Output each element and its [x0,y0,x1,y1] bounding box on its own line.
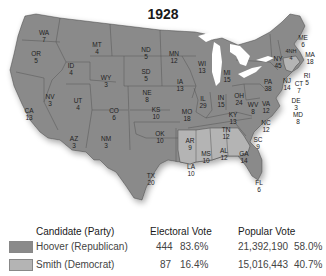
state-label-or: OR5 [31,50,41,64]
electoral-votes: 444 [156,241,173,252]
state-label-ct: CT7 [295,80,304,94]
electoral-percent: 83.6% [180,241,208,252]
state-label-ms: MS10 [201,150,211,164]
header-popular-vote: Popular Vote [238,226,295,237]
state-label-me: ME6 [298,34,308,48]
republican-swatch [9,241,33,253]
electoral-percent: 16.4% [180,259,208,270]
state-label-va: VA12 [262,100,270,114]
state-label-mi: MI15 [223,69,230,83]
state-label-ks: KS10 [152,106,161,120]
legend-row-smith: Smith (Democrat) 87 16.4% 15,016,443 40.… [0,258,326,274]
state-label-nj: NJ14 [283,77,291,91]
popular-percent: 58.0% [294,241,322,252]
header-electoral-vote: Electoral Vote [150,226,212,237]
state-label-pa: PA38 [264,78,272,92]
democrat-swatch [9,259,33,271]
state-label-oh: OH24 [234,92,244,106]
state-label-nc: NC12 [261,119,270,133]
state-label-la: LA10 [187,163,195,177]
state-label-sc: SC9 [253,136,262,150]
state-label-ar: AR9 [185,137,194,151]
state-label-mn: MN12 [169,50,179,64]
state-label-nv: NV3 [45,93,54,107]
candidate-name: Smith (Democrat) [36,259,114,270]
state-label-ok: OK10 [155,130,164,144]
state-label-wv: WV8 [248,101,258,115]
state-label-ne: NE8 [142,89,151,103]
state-label-mt: MT4 [92,41,101,55]
popular-percent: 40.7% [294,259,322,270]
state-label-in: IN15 [217,94,224,108]
state-label-ut: UT4 [74,97,83,111]
state-label-ma: MA18 [305,51,315,65]
state-label-mo: MO18 [182,108,192,122]
state-label-sd: SD5 [141,68,150,82]
state-label-vt-nh: 4NH4 [285,48,296,62]
electoral-votes: 87 [160,259,171,270]
state-label-tx: TX20 [147,172,155,186]
state-label-il: IL29 [199,95,206,109]
state-label-co: CO6 [109,107,119,121]
state-label-md: MD8 [293,111,303,125]
state-label-az: AZ3 [70,135,78,149]
state-label-ga: GA14 [239,150,248,164]
state-label-al: AL12 [220,147,228,161]
header-candidate: Candidate (Party) [36,226,114,237]
state-label-wi: WI13 [198,60,206,74]
state-label-tn: TN12 [222,126,231,140]
state-label-ky: KY13 [229,111,238,125]
state-label-wy: WY3 [101,74,111,88]
popular-votes: 15,016,443 [238,259,288,270]
state-label-id: ID4 [68,62,75,76]
state-label-nd: ND5 [141,46,150,60]
state-label-ny: NY45 [273,55,282,69]
state-label-de: DE3 [291,97,300,111]
popular-votes: 21,392,190 [238,241,288,252]
state-label-ca: CA13 [24,107,33,121]
legend-row-hoover: Hoover (Republican) 444 83.6% 21,392,190… [0,240,326,256]
state-label-nm: NM3 [101,135,111,149]
candidate-name: Hoover (Republican) [36,241,128,252]
state-label-fl: FL6 [255,179,263,193]
state-label-wa: WA7 [39,29,49,43]
state-label-ia: IA13 [176,78,183,92]
state-label-ri: RI5 [304,72,311,86]
